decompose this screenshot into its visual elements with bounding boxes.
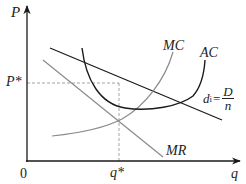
y-axis-label: P xyxy=(11,5,20,20)
quantity-star-label: q* xyxy=(110,166,124,180)
mr-curve xyxy=(43,60,163,157)
origin-label: 0 xyxy=(20,167,27,181)
ac-label: AC xyxy=(200,46,218,60)
mc-label: MC xyxy=(163,39,184,53)
x-axis-label: q xyxy=(231,167,238,181)
price-star-label: P* xyxy=(6,75,22,89)
demand-label-equals: = xyxy=(213,91,220,107)
mr-label: MR xyxy=(166,144,186,158)
mc-curve xyxy=(52,52,173,136)
demand-label: di = D n xyxy=(203,85,234,112)
demand-fraction: D n xyxy=(222,85,233,112)
demand-denominator: n xyxy=(225,99,232,112)
demand-numerator: D xyxy=(222,85,233,99)
ac-curve xyxy=(82,48,205,109)
demand-label-subscript: i xyxy=(210,94,213,104)
